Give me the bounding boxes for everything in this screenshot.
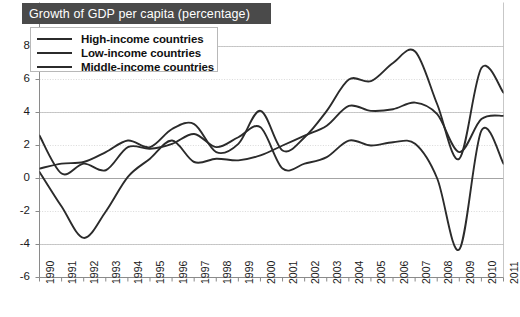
y-tick-label: 8 (8, 39, 30, 51)
x-tick-label: 1992 (88, 260, 100, 283)
x-tick-label: 1995 (154, 260, 166, 283)
y-tick-label: 0 (8, 171, 30, 183)
series-line-0 (40, 126, 504, 250)
legend-line-icon (37, 38, 72, 40)
legend-line-icon (37, 52, 72, 54)
x-tick-label: 2008 (442, 260, 454, 283)
x-tick-label: 1999 (243, 260, 255, 283)
x-tick-label: 2000 (265, 260, 277, 283)
legend-item-label: Low-income countries (81, 47, 201, 59)
y-tick-label: 4 (8, 105, 30, 117)
x-tick-label: 2009 (464, 260, 476, 283)
legend-line-icon (37, 66, 72, 68)
x-tick-label: 1997 (199, 260, 211, 283)
y-tick-label: -2 (8, 204, 30, 216)
y-tick-label: 2 (8, 138, 30, 150)
x-tick-label: 1994 (132, 260, 144, 283)
legend-item-label: Middle-income countries (81, 61, 214, 73)
y-tick-label: -6 (8, 270, 30, 282)
x-tick-label: 2004 (353, 260, 365, 283)
x-tick-label: 2003 (331, 260, 343, 283)
x-tick-label: 1996 (177, 260, 189, 283)
x-tick-label: 2006 (398, 260, 410, 283)
page-title: Growth of GDP per capita (percentage) (29, 7, 250, 21)
y-tick-label: 6 (8, 72, 30, 84)
gridlines (40, 47, 504, 278)
legend-item-label: High-income countries (81, 33, 204, 45)
x-tick-label: 1990 (44, 260, 56, 283)
y-tick-label: -4 (8, 237, 30, 249)
legend-item-high-income: High-income countries (37, 32, 211, 45)
chart-legend: High-income countries Low-income countri… (30, 27, 218, 72)
x-tick-label: 2002 (309, 260, 321, 283)
legend-item-low-income: Low-income countries (37, 46, 211, 59)
x-tick-label: 1998 (221, 260, 233, 283)
x-tick-label: 2001 (287, 260, 299, 283)
x-tick-label: 2010 (486, 260, 498, 283)
x-tick-label: 2005 (375, 260, 387, 283)
x-tick-label: 1991 (66, 260, 78, 283)
chart-title-bar: Growth of GDP per capita (percentage) (22, 3, 271, 24)
legend-item-middle-income: Middle-income countries (37, 60, 211, 73)
x-tick-label: 2011 (508, 261, 520, 284)
x-tick-label: 1993 (110, 260, 122, 283)
x-tick-label: 2007 (420, 260, 432, 283)
y-axis-ticks (36, 47, 40, 278)
